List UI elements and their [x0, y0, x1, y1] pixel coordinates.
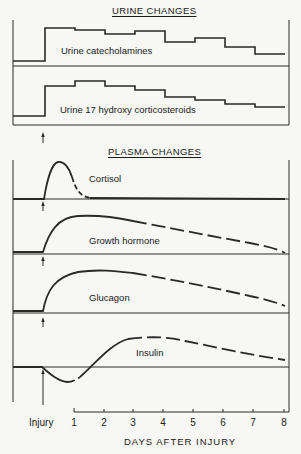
- cortisol-label: Cortisol: [89, 173, 121, 184]
- tick-4: 4: [160, 417, 166, 428]
- growth-hormone-label: Growth hormone: [89, 235, 160, 246]
- glucagon-label: Glucagon: [89, 292, 130, 303]
- tick-6: 6: [220, 417, 226, 428]
- plasma-section-header: PLASMA CHANGES: [108, 146, 201, 157]
- tick-2: 2: [101, 417, 107, 428]
- cortisol-line: [13, 162, 72, 199]
- catecholamines-label: Urine catecholamines: [61, 45, 152, 56]
- insulin-line: [13, 367, 67, 382]
- tick-1: 1: [71, 417, 77, 428]
- tick-3: 3: [130, 417, 136, 428]
- urine-section-header: URINE CHANGES: [112, 5, 196, 16]
- chart-canvas: [0, 0, 301, 454]
- growth-hormone-line: [13, 216, 133, 252]
- hydroxy-label: Urine 17 hydroxy corticosteroids: [60, 104, 196, 115]
- x-axis-ticks: [74, 408, 284, 412]
- injury-label: Injury: [29, 417, 53, 428]
- tick-5: 5: [190, 417, 196, 428]
- glucagon-line: [13, 270, 133, 311]
- tick-8: 8: [281, 417, 287, 428]
- x-axis-title: DAYS AFTER INJURY: [124, 436, 236, 447]
- insulin-label: Insulin: [136, 347, 163, 358]
- tick-7: 7: [250, 417, 256, 428]
